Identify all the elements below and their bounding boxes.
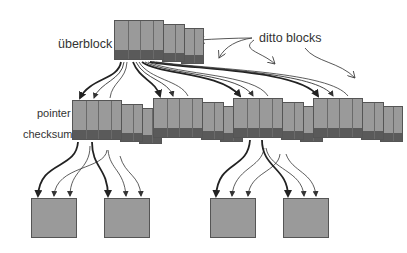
block-pointer-cell [339, 99, 340, 137]
data-block-4 [283, 198, 329, 238]
block-pointer-cell [98, 101, 99, 139]
block-pointer-cell [352, 99, 353, 137]
checksum-band [121, 133, 142, 141]
checksum-band [115, 50, 163, 59]
indirect-block-group-4-ditto-copy [361, 102, 384, 140]
checksum-band [362, 131, 383, 139]
block-pointer-cell [393, 107, 394, 141]
block-pointer-cell [167, 99, 168, 137]
data-block-3 [210, 198, 256, 238]
checksum-band [154, 128, 202, 137]
checksum-band [202, 131, 223, 139]
block-pointer-cell [259, 99, 260, 137]
indirect-block-group-2-ditto-copy [201, 102, 224, 140]
block-pointer-cell [153, 21, 154, 59]
checksum-band [314, 128, 362, 137]
indirect-block-group-1-ditto-copy [120, 104, 143, 142]
group3-pointers [216, 140, 316, 196]
block-pointer-cell [111, 101, 112, 139]
uberblock-ditto-copy [162, 24, 185, 62]
block-pointer-cell [194, 29, 195, 63]
block-pointer-cell [140, 21, 141, 59]
block-pointer-cell [175, 25, 176, 61]
block-pointer-cell [86, 101, 87, 139]
data-block-1 [31, 198, 77, 238]
uberblock-label: überblock [58, 37, 112, 51]
indirect-block-group-3-primary [233, 98, 283, 138]
block-pointer-cell [247, 99, 248, 137]
block-pointer-cell [133, 105, 134, 141]
indirect-block-group-4-primary [313, 98, 363, 138]
checksum-label: checksum [23, 128, 73, 140]
checksum-band [73, 130, 121, 139]
block-pointer-cell [192, 99, 193, 137]
checksum-band [282, 131, 303, 139]
block-pointer-cell [179, 99, 180, 137]
uberblock-primary [114, 20, 164, 60]
block-pointer-cell [272, 99, 273, 137]
data-block-2 [104, 198, 150, 238]
indirect-block-group-2-primary [153, 98, 203, 138]
uberblock-pointers [80, 62, 348, 98]
checksum-band [163, 53, 184, 61]
ditto-blocks-label: ditto blocks [259, 31, 322, 45]
checksum-band [234, 128, 282, 137]
indirect-block-group-3-ditto-copy [281, 102, 304, 140]
block-pointer-cell [128, 21, 129, 59]
block-pointer-cell [374, 103, 375, 139]
pointer-label: pointer [37, 107, 71, 119]
block-pointer-cell [214, 103, 215, 139]
checksum-band [381, 133, 402, 141]
zfs-ditto-blocks-diagram: überblock ditto blocks pointer checksum [0, 0, 407, 253]
checksum-band [182, 55, 203, 63]
block-pointer-cell [327, 99, 328, 137]
group1-pointers [38, 142, 141, 196]
indirect-block-group-1-primary [72, 100, 122, 140]
block-pointer-cell [294, 103, 295, 139]
